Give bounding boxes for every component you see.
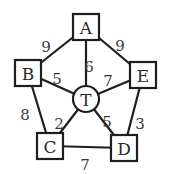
node-t: T xyxy=(73,86,99,112)
edge-weight-label: 2 xyxy=(54,115,64,133)
edge-weight-label: 9 xyxy=(41,38,51,56)
nodes-layer: ABECDT xyxy=(15,14,156,161)
edge-weight-label: 3 xyxy=(135,115,145,133)
node-d: D xyxy=(111,135,137,161)
node-label: B xyxy=(22,64,35,84)
graph-diagram: 9965782537 ABECDT xyxy=(0,0,169,174)
node-label: T xyxy=(80,90,92,110)
edge-weight-label: 5 xyxy=(102,113,112,131)
node-label: C xyxy=(43,137,56,157)
edge-weight-label: 7 xyxy=(103,72,113,90)
node-label: E xyxy=(137,66,149,86)
edge-weight-label: 5 xyxy=(52,70,62,88)
node-b: B xyxy=(15,60,41,86)
edge-weight-label: 6 xyxy=(84,58,94,76)
node-e: E xyxy=(130,62,156,88)
node-label: D xyxy=(117,139,131,159)
node-c: C xyxy=(37,133,63,159)
node-a: A xyxy=(73,14,99,40)
node-label: A xyxy=(79,18,93,38)
edge-weight-label: 9 xyxy=(115,37,125,55)
edge-weight-label: 7 xyxy=(80,156,90,174)
edge-weight-label: 8 xyxy=(20,106,30,124)
